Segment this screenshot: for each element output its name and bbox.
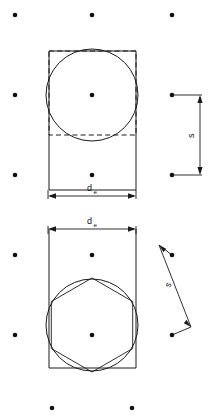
- inscribed-hexagon: [51, 278, 132, 372]
- s-arrow-bottom-icon: [197, 167, 202, 175]
- s-arrow-top-icon: [197, 95, 202, 103]
- s-diagonal-extension-bottom: [172, 327, 191, 335]
- grid-dot: [50, 406, 55, 411]
- grid-dot: [13, 13, 18, 18]
- diagram-canvas: d e s: [0, 0, 215, 419]
- lower-dimension-s: s: [159, 245, 191, 335]
- upper-rectangle-outline: [49, 51, 136, 190]
- upper-figure-group: [46, 49, 138, 190]
- grid-dot: [170, 13, 175, 18]
- de-label-main: d: [87, 183, 92, 193]
- de-arrow-right-icon: [128, 193, 136, 198]
- grid-dot-layer: [13, 13, 175, 411]
- grid-dot-center-lower: [90, 333, 95, 338]
- s-label-upper: s: [186, 133, 196, 138]
- lower-figure-group: [46, 229, 138, 372]
- s-label-lower: s: [163, 280, 174, 288]
- upper-dimension-s: s: [172, 95, 203, 175]
- de-lower-label-main: d: [87, 216, 92, 226]
- grid-dot: [130, 406, 135, 411]
- lower-circle: [46, 279, 138, 371]
- lower-dimension-de: d e: [48, 216, 136, 234]
- grid-dot-center-upper: [90, 93, 95, 98]
- grid-dot: [13, 173, 18, 178]
- grid-dot: [90, 173, 95, 178]
- grid-dot: [13, 253, 18, 258]
- de-lower-arrow-right-icon: [128, 226, 136, 231]
- technical-diagram-figure: d e s: [0, 0, 215, 419]
- upper-dimension-de: d e: [48, 183, 136, 199]
- grid-dot: [90, 253, 95, 258]
- lower-rectangle-outline: [49, 229, 136, 368]
- grid-dot: [13, 93, 18, 98]
- de-label-sub: e: [94, 188, 98, 195]
- de-arrow-left-icon: [48, 193, 56, 198]
- grid-dot: [13, 333, 18, 338]
- de-lower-label-sub: e: [94, 221, 98, 228]
- grid-dot: [90, 13, 95, 18]
